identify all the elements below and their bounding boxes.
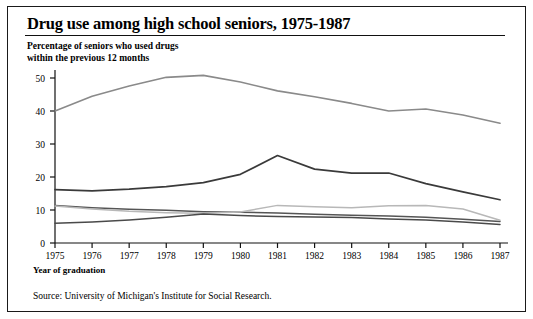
chart-figure: Drug use among high school seniors, 1975… <box>0 0 533 319</box>
y-axis-tick-label: 50 <box>36 74 46 84</box>
y-axis-tick-label: 0 <box>40 239 45 249</box>
x-axis-tick-label: 1986 <box>453 251 472 261</box>
x-axis-tick-label: 1982 <box>305 251 324 261</box>
x-axis-tick-label: 1984 <box>379 251 398 261</box>
x-axis-tick-label: 1980 <box>231 251 250 261</box>
x-axis-tick-label: 1985 <box>416 251 435 261</box>
source-note: Source: University of Michigan's Institu… <box>33 291 272 301</box>
data-line-series-2 <box>55 156 500 200</box>
x-axis-tick-label: 1977 <box>120 251 139 261</box>
x-axis-tick-label: 1979 <box>194 251 213 261</box>
x-axis-tick-label: 1981 <box>268 251 287 261</box>
x-axis-tick-label: 1978 <box>157 251 176 261</box>
data-line-series-3 <box>55 205 500 221</box>
x-axis-title: Year of graduation <box>33 265 105 275</box>
data-line-series-5 <box>55 214 500 225</box>
y-axis-tick-label: 30 <box>36 140 46 150</box>
x-axis-tick-label: 1976 <box>83 251 102 261</box>
y-axis-tick-label: 10 <box>36 206 46 216</box>
x-axis-tick-label: 1987 <box>491 251 510 261</box>
data-line-series-1 <box>55 75 500 123</box>
x-axis-tick-label: 1983 <box>342 251 361 261</box>
x-axis-tick-label: 1975 <box>46 251 65 261</box>
y-axis-tick-label: 20 <box>36 173 46 183</box>
y-axis-tick-label: 40 <box>36 107 46 117</box>
